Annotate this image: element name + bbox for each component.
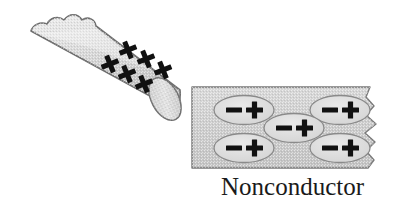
- molecule-outline: [310, 134, 370, 163]
- charged-rod: [31, 15, 188, 126]
- molecule-top-left: [214, 96, 274, 125]
- molecule-bottom-right: [310, 134, 370, 163]
- molecule-negative-glyph: [226, 145, 242, 150]
- molecule-center: [264, 114, 324, 143]
- molecule-outline: [214, 96, 274, 125]
- molecule-negative-glyph: [322, 107, 338, 112]
- molecule-negative-glyph: [226, 107, 242, 112]
- molecule-negative-glyph: [322, 145, 338, 150]
- nonconductor-label: Nonconductor: [205, 172, 380, 202]
- nonconductor-block: [192, 87, 376, 168]
- molecule-outline: [264, 114, 324, 143]
- molecule-outline: [214, 134, 274, 163]
- molecule-negative-glyph: [276, 125, 292, 130]
- molecule-bottom-left: [214, 134, 274, 163]
